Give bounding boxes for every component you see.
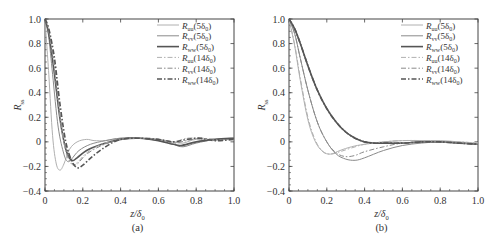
legend-label: Rww(14δ0) — [425, 75, 462, 86]
panel-a: 00.20.40.60.81.0−0.4−0.200.20.40.60.81.0… — [12, 14, 240, 235]
legend: Ruu(5δ0)Rvv(5δ0)Rww(5δ0)Ruu(14δ0)Rvv(14δ… — [157, 21, 218, 86]
x-tick-label: 0.8 — [190, 195, 203, 206]
y-tick-label: 0.6 — [29, 63, 42, 74]
y-tick-label: 0.6 — [273, 63, 286, 74]
x-tick-label: 0.2 — [77, 195, 90, 206]
y-tick-label: 0.4 — [29, 87, 42, 98]
legend-label: Ruu(5δ0) — [425, 21, 455, 32]
legend-label: Ruu(14δ0) — [181, 53, 216, 64]
x-tick-label: 0.2 — [321, 195, 334, 206]
x-tick-label: 1.0 — [228, 195, 241, 206]
legend-label: Rvv(14δ0) — [425, 64, 460, 75]
figure: 00.20.40.60.81.0−0.4−0.200.20.40.60.81.0… — [0, 0, 492, 238]
x-tick-label: 0.6 — [396, 195, 409, 206]
panel-caption: (b) — [375, 222, 388, 234]
y-tick-label: −0.2 — [23, 161, 41, 172]
x-tick-label: 0.4 — [358, 195, 371, 206]
x-tick-label: 0 — [287, 195, 292, 206]
x-axis-label: z/δ0 — [373, 208, 389, 221]
y-tick-label: 0.4 — [273, 87, 286, 98]
y-tick-label: 0.2 — [273, 112, 286, 123]
x-axis-label: z/δ0 — [129, 208, 145, 221]
y-tick-label: 0.8 — [29, 38, 42, 49]
y-axis-label: Rss — [256, 99, 269, 112]
y-tick-label: 0.2 — [29, 112, 42, 123]
y-tick-label: 1.0 — [273, 14, 286, 25]
legend-label: Ruu(5δ0) — [181, 21, 211, 32]
legend-label: Ruu(14δ0) — [425, 53, 460, 64]
x-tick-label: 0 — [43, 195, 48, 206]
legend-label: Rvv(5δ0) — [425, 31, 455, 42]
panel-caption: (a) — [132, 222, 144, 234]
y-tick-label: 0 — [36, 136, 41, 147]
x-tick-label: 0.6 — [152, 195, 165, 206]
x-tick-label: 0.8 — [434, 195, 447, 206]
y-tick-label: 0 — [280, 136, 285, 147]
y-tick-label: −0.4 — [267, 186, 285, 197]
legend-label: Rww(5δ0) — [181, 42, 214, 53]
y-axis-label: Rss — [12, 99, 25, 112]
legend-label: Rww(14δ0) — [181, 75, 218, 86]
legend-label: Rvv(5δ0) — [181, 31, 211, 42]
legend-label: Rww(5δ0) — [425, 42, 458, 53]
y-tick-label: −0.2 — [267, 161, 285, 172]
legend: Ruu(5δ0)Rvv(5δ0)Rww(5δ0)Ruu(14δ0)Rvv(14δ… — [401, 21, 462, 86]
panel-b: 00.20.40.60.81.0−0.4−0.200.20.40.60.81.0… — [256, 14, 484, 235]
y-tick-label: 0.8 — [273, 38, 286, 49]
x-tick-label: 0.4 — [114, 195, 127, 206]
y-tick-label: −0.4 — [23, 186, 41, 197]
x-tick-label: 1.0 — [472, 195, 485, 206]
legend-label: Rvv(14δ0) — [181, 64, 216, 75]
y-tick-label: 1.0 — [29, 14, 42, 25]
